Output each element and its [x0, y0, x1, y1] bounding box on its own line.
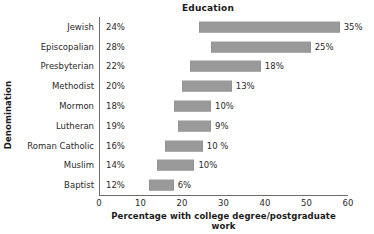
chart-row: Jewish24%35%	[0, 17, 374, 37]
bar-value-label: 18%	[265, 61, 284, 71]
start-value-label: 28%	[106, 42, 125, 52]
bar-value-label: 25%	[315, 42, 334, 52]
bar	[174, 100, 211, 111]
bar	[211, 41, 311, 52]
chart-row: Baptist12%6%	[0, 175, 374, 195]
start-value-label: 19%	[106, 121, 125, 131]
bar	[149, 180, 174, 191]
bar-value-label: 9%	[215, 121, 229, 131]
x-tick-label: 20	[177, 198, 188, 208]
chart-row: Lutheran19%9%	[0, 116, 374, 136]
bar	[157, 160, 194, 171]
education-bar-chart: Education Denomination Jewish24%35%Episc…	[0, 0, 374, 234]
bar	[178, 120, 211, 131]
chart-row: Mormon18%10%	[0, 96, 374, 116]
start-value-label: 16%	[106, 141, 125, 151]
start-value-label: 12%	[106, 180, 125, 190]
category-label: Episcopalian	[41, 42, 94, 52]
category-label: Roman Catholic	[27, 141, 94, 151]
bar-value-label: 35%	[344, 22, 363, 32]
chart-row: Methodist20%13%	[0, 76, 374, 96]
category-label: Presbyterian	[41, 61, 94, 71]
category-label: Baptist	[64, 180, 94, 190]
bar-value-label: 10 %	[207, 141, 229, 151]
category-label: Jewish	[67, 22, 94, 32]
x-tick-label: 30	[218, 198, 229, 208]
start-value-label: 14%	[106, 160, 125, 170]
chart-row: Episcopalian28%25%	[0, 37, 374, 57]
category-label: Methodist	[52, 81, 94, 91]
bar	[190, 61, 261, 72]
bar-value-label: 10%	[198, 160, 217, 170]
start-value-label: 20%	[106, 81, 125, 91]
bar	[199, 21, 340, 32]
plot-area: Jewish24%35%Episcopalian28%25%Presbyteri…	[0, 17, 374, 195]
x-axis-title: Percentage with college degree/postgradu…	[99, 211, 348, 231]
bar	[182, 81, 232, 92]
category-label: Lutheran	[56, 121, 94, 131]
start-value-label: 22%	[106, 61, 125, 71]
x-tick-label: 40	[260, 198, 271, 208]
bar-value-label: 6%	[178, 180, 192, 190]
chart-row: Roman Catholic16%10 %	[0, 136, 374, 156]
start-value-label: 24%	[106, 22, 125, 32]
bar	[165, 140, 202, 151]
category-label: Muslim	[64, 160, 94, 170]
chart-row: Muslim14%10%	[0, 155, 374, 175]
x-tick-label: 60	[343, 198, 354, 208]
x-axis-line	[99, 195, 348, 196]
chart-title: Education	[0, 3, 374, 13]
x-tick-label: 0	[96, 198, 101, 208]
bar-value-label: 10%	[215, 101, 234, 111]
chart-row: Presbyterian22%18%	[0, 57, 374, 77]
x-tick-label: 50	[301, 198, 312, 208]
start-value-label: 18%	[106, 101, 125, 111]
x-tick-label: 10	[135, 198, 146, 208]
category-label: Mormon	[59, 101, 94, 111]
bar-value-label: 13%	[236, 81, 255, 91]
